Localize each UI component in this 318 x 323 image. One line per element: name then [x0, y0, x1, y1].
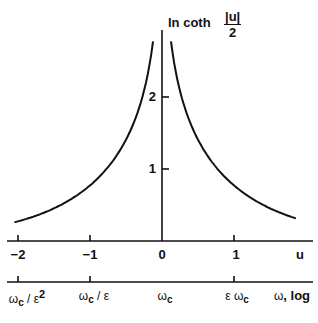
ticks	[18, 97, 234, 282]
y-tick-label-2: 2	[149, 90, 156, 103]
chart-canvas	[0, 0, 318, 323]
fraction-denominator: 2	[229, 25, 236, 39]
y-tick-label-1: 1	[149, 162, 156, 175]
x-tick-label-neg2: −2	[11, 248, 26, 261]
x-tick-label-1: 1	[232, 248, 239, 261]
omega-tick-label-neg1: ωc / ε	[79, 289, 109, 305]
x-tick-label-0: 0	[158, 248, 165, 261]
y-axis-label-prefix: ln coth	[168, 15, 211, 30]
y-axis-label: ln coth	[168, 16, 211, 29]
y-axis-label-fraction: |u| 2	[224, 10, 241, 39]
curve-left-branch	[14, 41, 153, 222]
x-axis-label-u: u	[296, 248, 304, 261]
curve-right-branch	[171, 41, 296, 218]
curves	[14, 41, 296, 222]
omega-axis-label: ω, log	[274, 289, 310, 302]
x-tick-label-neg1: −1	[83, 248, 98, 261]
fraction-numerator: |u|	[224, 10, 241, 25]
omega-tick-label-0: ωc	[158, 289, 173, 305]
omega-tick-label-1: ε ωc	[225, 289, 249, 305]
omega-tick-label-neg2: ωc / ε2	[9, 289, 45, 308]
